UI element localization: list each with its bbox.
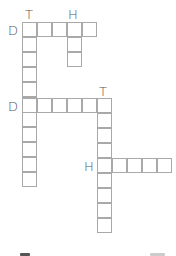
grid-cell[interactable] [82, 22, 97, 37]
grid-cell[interactable] [22, 67, 37, 82]
grid-cell[interactable] [22, 52, 37, 67]
grid-cell[interactable] [67, 37, 82, 52]
clue-letter-h-second: H [84, 160, 94, 173]
grid-cell[interactable] [157, 158, 172, 173]
clue-letter-d-first: D [8, 24, 18, 37]
grid-cell[interactable] [97, 98, 112, 113]
grid-cell[interactable] [52, 22, 67, 37]
grid-cell[interactable] [22, 98, 37, 113]
grid-cell[interactable] [97, 188, 112, 203]
grid-cell[interactable] [97, 143, 112, 158]
grid-cell[interactable] [97, 218, 112, 233]
grid-cell[interactable] [52, 98, 67, 113]
grid-cell[interactable] [67, 22, 82, 37]
grid-cell[interactable] [112, 158, 127, 173]
clue-letter-d-second: D [8, 100, 18, 113]
grid-cell[interactable] [37, 22, 52, 37]
grid-cell[interactable] [22, 112, 37, 127]
grid-cell[interactable] [97, 113, 112, 128]
grid-cell[interactable] [22, 142, 37, 157]
grid-cell[interactable] [97, 173, 112, 188]
grid-cell[interactable] [22, 22, 37, 37]
clue-letter-t-top: T [25, 8, 33, 21]
clue-letter-t-second: T [99, 85, 107, 98]
grid-cell[interactable] [22, 37, 37, 52]
grid-cell[interactable] [67, 98, 82, 113]
grid-cell[interactable] [22, 82, 37, 97]
grid-cell[interactable] [127, 158, 142, 173]
clue-letter-h-top: H [68, 8, 78, 21]
grid-cell[interactable] [37, 98, 52, 113]
grid-cell[interactable] [142, 158, 157, 173]
grid-cell[interactable] [22, 127, 37, 142]
grid-cell[interactable] [22, 157, 37, 172]
grid-cell[interactable] [97, 203, 112, 218]
grid-cell[interactable] [82, 98, 97, 113]
grid-cell[interactable] [67, 52, 82, 67]
grid-cell[interactable] [97, 128, 112, 143]
grid-cell[interactable] [97, 158, 112, 173]
grid-cell[interactable] [22, 172, 37, 187]
